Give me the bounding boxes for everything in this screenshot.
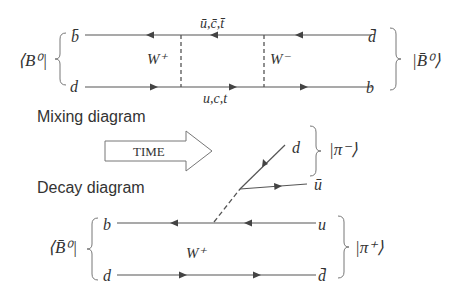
mixing-bottom-internal-label: u,c,t	[203, 91, 228, 106]
arrow-right-icon	[274, 183, 282, 190]
arrow-left-icon	[295, 32, 303, 39]
w-plus-label: W⁺	[147, 51, 168, 67]
decay-right-brace	[338, 216, 349, 278]
feynman-diagrams: ⟨B⁰| |B̄⁰⟩ b̄ d W⁺ W⁻ ū,c̄,t̄ u,c,t d̄ b…	[0, 0, 453, 299]
pion-minus-state: |π⁻⟩	[329, 140, 358, 159]
mixing-diagram: ⟨B⁰| |B̄⁰⟩ b̄ d W⁺ W⁻ ū,c̄,t̄ u,c,t d̄ b…	[18, 16, 441, 125]
mixing-top-right-label: d̄	[368, 28, 377, 45]
w-minus-label: W⁻	[270, 51, 291, 67]
mixing-initial-state: ⟨B⁰|	[18, 51, 47, 70]
arrow-right-icon	[229, 84, 237, 91]
branch-top-label: d	[292, 139, 301, 156]
time-arrow: TIME	[105, 131, 212, 171]
mixing-top-internal-label: ū,c̄,t̄	[200, 16, 226, 31]
arrow-left-icon	[210, 32, 218, 39]
left-brace	[55, 33, 66, 85]
pion-plus-state: |π⁺⟩	[355, 238, 384, 257]
mixing-bottom-left-label: d	[70, 78, 79, 95]
mixing-top-left-label: b̄	[71, 28, 79, 45]
decay-bottom-left-label: d	[103, 267, 112, 284]
w-plus-decay-propagator	[214, 189, 240, 222]
mixing-caption: Mixing diagram	[37, 108, 145, 125]
mixing-final-state: |B̄⁰⟩	[412, 51, 441, 70]
mixing-bottom-right-label: b	[366, 79, 374, 96]
decay-caption: Decay diagram	[37, 179, 145, 196]
arrow-right-icon	[150, 84, 158, 91]
arrow-left-icon	[244, 220, 252, 227]
arrow-right-icon	[300, 84, 308, 91]
branch-ubar-line	[240, 184, 307, 189]
decay-bottom-right-label: d̄	[318, 267, 327, 284]
decay-w-label: W⁺	[186, 245, 207, 261]
arrow-right-icon	[179, 272, 187, 279]
decay-initial-state: ⟨B̄⁰|	[48, 238, 77, 257]
decay-top-right-label: u	[318, 216, 326, 233]
decay-left-brace	[87, 218, 98, 280]
branch-d-line	[240, 145, 285, 189]
pion-minus-brace	[310, 126, 321, 176]
arrow-right-icon	[253, 272, 261, 279]
right-brace	[390, 28, 401, 90]
branch-bottom-label: ū	[314, 176, 322, 193]
arrow-left-icon	[170, 220, 178, 227]
arrow-left-icon	[146, 32, 154, 39]
decay-top-left-label: b	[103, 216, 111, 233]
time-arrow-label: TIME	[133, 144, 165, 159]
